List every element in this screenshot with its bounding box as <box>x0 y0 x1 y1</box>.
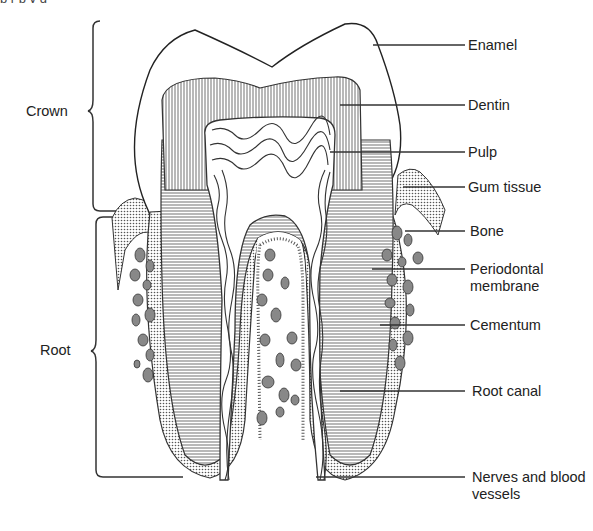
label-nerves-blood-vessels: Nerves and blood vessels <box>472 469 593 503</box>
label-gum-tissue: Gum tissue <box>468 179 541 196</box>
label-bone: Bone <box>470 223 504 240</box>
label-cementum: Cementum <box>470 317 541 334</box>
root-label: Root <box>40 342 71 359</box>
crown-label: Crown <box>26 103 68 120</box>
label-pulp: Pulp <box>468 144 497 161</box>
label-dentin: Dentin <box>468 97 510 114</box>
label-enamel: Enamel <box>468 37 517 54</box>
label-root-canal: Root canal <box>472 383 541 400</box>
caption-fragment: p r p y g <box>0 0 593 3</box>
tooth-diagram: p r p y g Crown Root Enamel Dentin Pulp … <box>0 0 593 531</box>
label-periodontal-membrane: Periodontal membrane <box>470 261 593 295</box>
gum-tissue-right <box>395 169 445 235</box>
